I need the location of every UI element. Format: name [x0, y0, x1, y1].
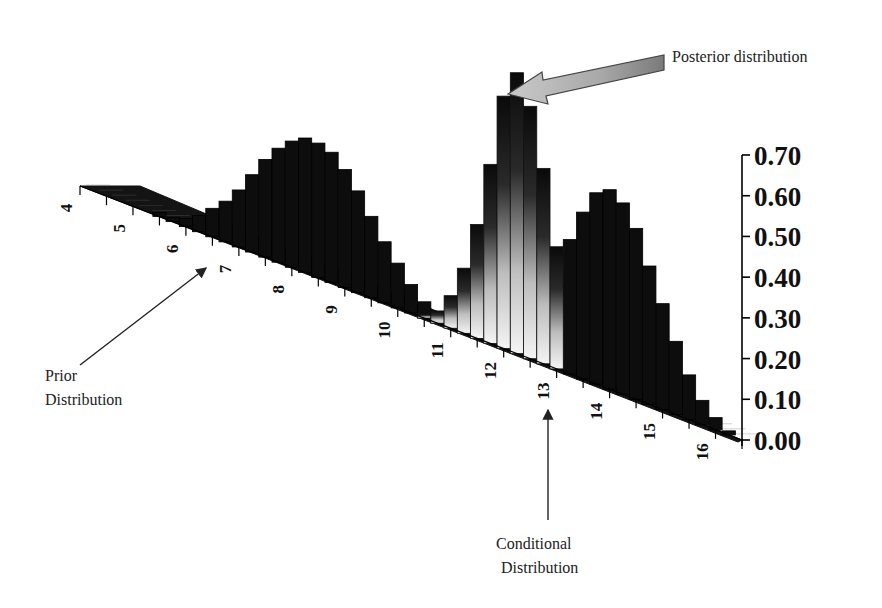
bar-prior	[365, 216, 378, 297]
bar-conditional	[616, 203, 629, 394]
bar-conditional	[656, 304, 669, 410]
bar-prior	[246, 175, 259, 252]
bar-posterior	[550, 247, 563, 369]
bar-conditional	[563, 240, 576, 374]
conditional-label-line2: Distribution	[501, 559, 578, 576]
bar-posterior	[444, 296, 457, 329]
x-tick-label: 6	[163, 244, 182, 253]
bar-prior	[219, 201, 232, 242]
posterior-block-arrow	[508, 55, 664, 104]
x-tick-label: 8	[269, 285, 288, 294]
bar-posterior	[457, 268, 470, 333]
bar-prior	[312, 143, 325, 277]
bar-posterior	[484, 164, 497, 343]
y-tick-label: 0.20	[754, 345, 801, 375]
x-tick-label: 13	[534, 382, 553, 399]
bar-prior	[338, 170, 351, 288]
bar-posterior	[471, 224, 484, 338]
y-tick-label: 0.30	[754, 304, 801, 334]
bar-prior	[285, 141, 298, 267]
bar-conditional	[629, 228, 642, 399]
bar-prior	[232, 190, 245, 247]
prior-label-line2: Distribution	[45, 391, 122, 408]
bar-prior	[404, 285, 417, 314]
x-tick-label: 4	[57, 203, 76, 212]
bar-conditional	[577, 212, 590, 379]
x-tick-label: 12	[481, 362, 500, 379]
bar-conditional	[643, 266, 656, 404]
x-tick-label: 15	[640, 423, 659, 440]
bar-prior	[351, 191, 364, 293]
y-tick-label: 0.70	[754, 141, 801, 171]
x-tick-label: 7	[216, 264, 235, 273]
bar-conditional	[590, 193, 603, 384]
y-tick-label: 0.10	[754, 385, 801, 415]
bar-conditional	[669, 341, 682, 414]
bar-posterior	[510, 73, 523, 354]
y-tick-label: 0.00	[754, 426, 801, 456]
bar-prior	[206, 208, 219, 237]
posterior-label: Posterior distribution	[672, 48, 808, 65]
x-tick-label: 16	[693, 443, 712, 460]
bar-posterior	[497, 96, 510, 348]
bar-prior	[193, 215, 206, 231]
histogram-chart: 45678910111213141516 0.000.100.200.300.4…	[0, 0, 882, 608]
conditional-label-line1: Conditional	[496, 535, 572, 552]
x-tick-label: 11	[428, 342, 447, 358]
x-tick-label: 9	[322, 305, 341, 314]
x-tick-label: 14	[587, 402, 606, 420]
bar-prior	[259, 159, 272, 257]
bar-conditional	[603, 190, 616, 390]
bar-prior	[391, 263, 404, 308]
bar-prior	[298, 138, 311, 272]
y-axis: 0.000.100.200.300.400.500.600.70	[742, 141, 801, 456]
x-tick-label: 5	[110, 224, 129, 233]
bar-prior	[325, 152, 338, 282]
bar-conditional	[682, 375, 695, 420]
bar-prior	[272, 148, 285, 262]
bar-posterior	[537, 168, 550, 363]
bar-conditional	[696, 400, 709, 424]
y-tick-label: 0.40	[754, 263, 801, 293]
bar-prior	[378, 242, 391, 303]
prior-label-line1: Prior	[45, 367, 78, 384]
bar-posterior	[524, 106, 537, 358]
y-tick-label: 0.60	[754, 182, 801, 212]
prior-arrow	[80, 268, 206, 365]
y-tick-label: 0.50	[754, 222, 801, 252]
x-tick-label: 10	[375, 321, 394, 338]
